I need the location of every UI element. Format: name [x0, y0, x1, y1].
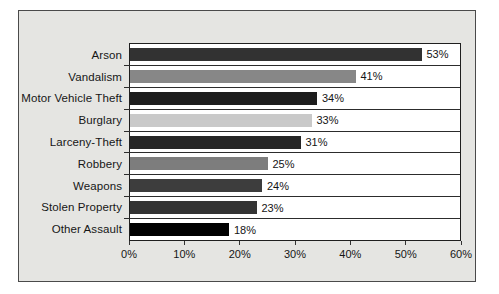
category-label-burglary: Burglary	[19, 109, 122, 131]
bar-vandalism	[130, 70, 356, 83]
bar-value-label: 31%	[306, 136, 328, 148]
bar-value-label: 33%	[317, 114, 339, 126]
x-tick-label: 30%	[284, 248, 306, 260]
bar-motor-vehicle-theft	[130, 92, 317, 105]
bar-row-weapons: 24%	[130, 175, 460, 197]
bar-value-label: 25%	[273, 158, 295, 170]
category-axis-labels: ArsonVandalismMotor Vehicle TheftBurglar…	[19, 44, 122, 240]
category-label-weapons: Weapons	[19, 175, 122, 197]
bar-value-label: 24%	[267, 180, 289, 192]
chart-panel: ArsonVandalismMotor Vehicle TheftBurglar…	[18, 10, 476, 282]
category-label-larceny-theft: Larceny-Theft	[19, 131, 122, 153]
category-label-arson: Arson	[19, 44, 122, 66]
x-tick	[350, 241, 351, 245]
bar-row-burglary: 33%	[130, 110, 460, 132]
bar-burglary	[130, 114, 312, 127]
category-label-other-assault: Other Assault	[19, 218, 122, 240]
category-label-stolen-property: Stolen Property	[19, 196, 122, 218]
x-tick	[461, 241, 462, 245]
x-tick-label: 20%	[229, 248, 251, 260]
x-axis-labels: 0%10%20%30%40%50%60%	[129, 248, 461, 262]
x-tick-label: 0%	[121, 248, 137, 260]
x-tick-label: 50%	[395, 248, 417, 260]
category-label-motor-vehicle-theft: Motor Vehicle Theft	[19, 88, 122, 110]
bar-row-arson: 53%	[130, 44, 460, 66]
x-tick	[129, 241, 130, 245]
bar-value-label: 41%	[361, 70, 383, 82]
x-axis-ticks	[129, 241, 461, 246]
bar-row-larceny-theft: 31%	[130, 132, 460, 154]
x-tick	[295, 241, 296, 245]
x-tick	[405, 241, 406, 245]
bar-stolen-property	[130, 201, 257, 214]
bar-robbery	[130, 157, 268, 170]
bar-row-stolen-property: 23%	[130, 197, 460, 219]
bar-arson	[130, 48, 422, 61]
x-tick-label: 40%	[339, 248, 361, 260]
bar-value-label: 23%	[262, 202, 284, 214]
category-label-vandalism: Vandalism	[19, 66, 122, 88]
plot-area: 53%41%34%33%31%25%24%23%18%	[129, 43, 461, 241]
bar-value-label: 53%	[427, 48, 449, 60]
bar-value-label: 18%	[234, 224, 256, 236]
bar-larceny-theft	[130, 136, 301, 149]
bar-other-assault	[130, 223, 229, 236]
bar-weapons	[130, 179, 262, 192]
bar-row-vandalism: 41%	[130, 66, 460, 88]
category-label-robbery: Robbery	[19, 153, 122, 175]
x-tick	[239, 241, 240, 245]
bar-row-motor-vehicle-theft: 34%	[130, 88, 460, 110]
x-tick-label: 60%	[450, 248, 472, 260]
x-tick-label: 10%	[173, 248, 195, 260]
bar-row-robbery: 25%	[130, 153, 460, 175]
x-tick	[184, 241, 185, 245]
bar-value-label: 34%	[322, 92, 344, 104]
bar-row-other-assault: 18%	[130, 219, 460, 240]
bar-rows: 53%41%34%33%31%25%24%23%18%	[130, 44, 460, 240]
